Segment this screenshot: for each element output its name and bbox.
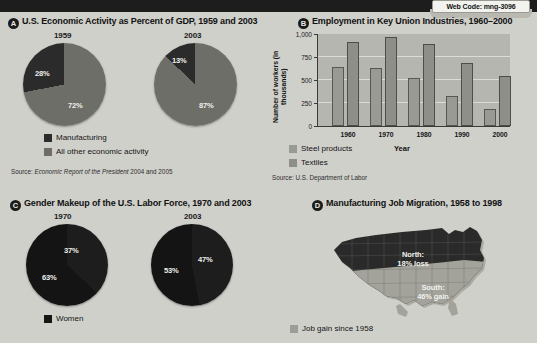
bar-steel-1990 — [446, 96, 458, 126]
panel-a-chart2-year: 2003 — [184, 31, 201, 40]
panel-b-xtick-1960: 1960 — [328, 131, 368, 138]
panel-a-legend-label-other: All other economic activity — [56, 147, 148, 156]
panel-b-ytick-0: 0 — [288, 123, 312, 130]
panel-c-pie-2003 — [151, 224, 233, 306]
panel-b-legend-label-textiles: Textiles — [301, 158, 328, 167]
panel-d-title: DManufacturing Job Migration, 1958 to 19… — [312, 198, 502, 211]
bar-textiles-1970 — [385, 37, 397, 126]
panel-d-legend-label-job-gain: Job gain since 1958 — [302, 324, 373, 333]
panel-b-y-axis-title: Number of workers (in thousands) — [272, 46, 288, 128]
bar-textiles-1960 — [347, 42, 359, 126]
panel-b-letter: B — [298, 18, 309, 29]
panel-a-legend-label-manufacturing: Manufacturing — [56, 133, 107, 142]
panel-a-legend-item-other: All other economic activity — [44, 147, 148, 156]
panel-b-x-axis-title: Year — [394, 144, 410, 153]
panel-d-letter: D — [312, 200, 323, 211]
panel-d-legend-item-job-gain: Job gain since 1958 — [290, 324, 373, 333]
legend-swatch-icon — [289, 145, 297, 153]
panel-a-pie-1959-slice-other-label: 72% — [68, 101, 82, 110]
panel-d-south-label: South: 46% gain — [398, 283, 468, 302]
panel-b-legend-item-steel: Steel products — [289, 144, 352, 153]
panel-b-legend-label-steel: Steel products — [301, 144, 352, 153]
panel-a-source-prefix: Source: — [11, 168, 33, 175]
panel-a-chart1-year: 1959 — [54, 31, 71, 40]
panel-b-xtick-1980: 1980 — [404, 131, 444, 138]
bar-textiles-1980 — [423, 44, 435, 126]
panel-c-legend-item-women: Women — [44, 314, 83, 323]
panel-a-title-text: U.S. Economic Activity as Percent of GDP… — [22, 16, 257, 26]
legend-swatch-icon — [44, 134, 52, 142]
panel-b-ytick-250: 250 — [288, 100, 312, 107]
panel-c: CGender Makeup of the U.S. Labor Force, … — [6, 198, 264, 343]
bar-textiles-2000 — [499, 76, 511, 126]
legend-swatch-icon — [44, 148, 52, 156]
panel-c-pie-1970-slice-men-label: 63% — [42, 273, 56, 282]
panel-d: DManufacturing Job Migration, 1958 to 19… — [270, 198, 532, 343]
panel-a-source-italic: Economic Report of the President — [34, 168, 128, 175]
bar-steel-2000 — [484, 109, 496, 126]
panel-d-north-label: North: 18% loss — [378, 250, 448, 269]
web-code-badge[interactable]: Web Code: mng-3096 — [432, 0, 530, 13]
panel-a: AU.S. Economic Activity as Percent of GD… — [6, 16, 264, 194]
panel-b-xtick-1990: 1990 — [442, 131, 482, 138]
panel-a-pie-2003 — [154, 43, 237, 126]
panel-c-chart1-year: 1970 — [54, 212, 71, 221]
panel-c-pie-1970 — [26, 224, 108, 306]
legend-swatch-icon — [290, 325, 298, 333]
panel-d-south-line2: 46% gain — [417, 292, 449, 301]
panel-c-pie-2003-slice-men-label: 53% — [164, 266, 178, 275]
panel-c-title: CGender Makeup of the U.S. Labor Force, … — [10, 198, 251, 211]
panel-b-ytick-750: 750 — [288, 54, 312, 61]
panel-b-title-text: Employment in Key Union Industries, 1960… — [312, 16, 512, 26]
panel-d-south-line1: South: — [421, 283, 444, 292]
bar-textiles-1990 — [461, 63, 473, 126]
panel-a-source: Source: Economic Report of the President… — [11, 168, 172, 175]
panel-b-ytick-1000: 1,000 — [288, 31, 312, 38]
panel-b-xtick-2000: 2000 — [480, 131, 520, 138]
panel-a-title: AU.S. Economic Activity as Percent of GD… — [8, 16, 257, 29]
panel-c-letter: C — [10, 200, 21, 211]
bar-steel-1980 — [408, 78, 420, 126]
panel-c-chart2-year: 2003 — [184, 212, 201, 221]
panel-b-ytick-500: 500 — [288, 77, 312, 84]
panel-a-legend-item-manufacturing: Manufacturing — [44, 133, 107, 142]
map-texas-gulf — [396, 304, 408, 317]
panel-b-source: Source: U.S. Department of Labor — [272, 174, 367, 181]
panel-d-north-line2: 18% loss — [397, 259, 428, 268]
panel-c-pie-1970-slice-women-label: 37% — [64, 246, 78, 255]
panel-b: BEmployment in Key Union Industries, 196… — [270, 16, 532, 194]
panel-b-title: BEmployment in Key Union Industries, 196… — [298, 16, 512, 29]
legend-swatch-icon — [289, 159, 297, 167]
legend-swatch-icon — [44, 315, 52, 323]
panel-b-legend-item-textiles: Textiles — [289, 158, 328, 167]
panel-b-xtick-1970: 1970 — [366, 131, 406, 138]
panel-a-pie-1959 — [23, 43, 106, 126]
panel-c-legend-label-women: Women — [56, 314, 83, 323]
bar-steel-1960 — [332, 67, 344, 126]
figure-page: Web Code: mng-3096 AU.S. Economic Activi… — [0, 0, 537, 343]
panel-a-pie-1959-slice-manufacturing-label: 28% — [35, 69, 49, 78]
panel-a-pie-2003-slice-manufacturing-label: 13% — [172, 56, 186, 65]
panel-d-north-line1: North: — [402, 250, 424, 259]
panel-c-pie-2003-slice-women-label: 47% — [198, 255, 212, 264]
panel-c-title-text: Gender Makeup of the U.S. Labor Force, 1… — [24, 198, 251, 208]
panel-a-pie-2003-slice-other-label: 87% — [199, 101, 213, 110]
bar-steel-1970 — [370, 68, 382, 126]
panel-a-letter: A — [8, 18, 19, 29]
panel-d-title-text: Manufacturing Job Migration, 1958 to 199… — [326, 198, 502, 208]
panel-b-plot-area — [317, 34, 510, 127]
panel-a-source-suffix: 2004 and 2005 — [130, 168, 172, 175]
